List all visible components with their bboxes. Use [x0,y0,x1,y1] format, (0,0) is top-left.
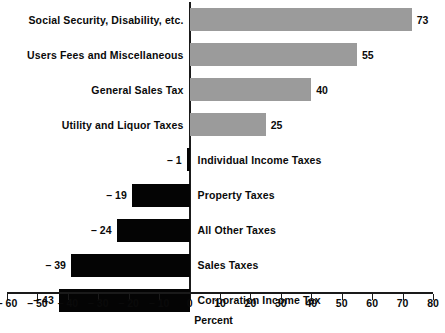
bar-row: General Sales Tax40 [0,78,445,101]
bar-category-label: Utility and Liquor Taxes [62,119,184,131]
plot-area: Social Security, Disability, etc.73Users… [0,0,445,292]
x-axis-title: Percent [194,314,233,326]
x-axis-tick-label: 30 [275,297,287,309]
bar-value-label: – 24 [91,224,111,236]
x-axis-tick-label: – 30 [88,297,108,309]
bar-negative [132,184,190,207]
bar-category-label: Social Security, Disability, etc. [28,14,183,26]
bar-value-label: – 1 [167,154,182,166]
bar-positive [190,43,357,66]
bar-value-label: 55 [362,49,374,61]
x-axis-tick-label: 50 [336,297,348,309]
x-axis-tick-label: 60 [366,297,378,309]
bar-negative [71,254,190,277]
bar-positive [190,8,412,31]
bar-category-label: Users Fees and Miscellaneous [27,49,184,61]
bar-value-label: 73 [417,14,429,26]
bar-value-label: 40 [316,84,328,96]
x-axis-tick-label: – 10 [149,297,169,309]
bar-negative [187,148,190,171]
bar-row: Sales Taxes– 39 [0,254,445,277]
bar-row: Social Security, Disability, etc.73 [0,8,445,31]
x-axis: Percent – 60– 50– 40– 30– 20– 1001020304… [0,292,445,333]
bar-category-label: Individual Income Taxes [198,154,322,166]
x-axis-tick-label: 80 [427,297,439,309]
bar-positive [190,78,312,101]
bar-value-label: – 19 [106,189,126,201]
bar-row: Property Taxes– 19 [0,184,445,207]
bar-category-label: All Other Taxes [198,224,277,236]
bar-negative [117,219,190,242]
bar-category-label: Sales Taxes [198,259,259,271]
bar-row: Users Fees and Miscellaneous55 [0,43,445,66]
x-axis-tick-label: 0 [187,297,193,309]
bar-row: Individual Income Taxes– 1 [0,148,445,171]
x-axis-tick-label: 70 [397,297,409,309]
x-axis-tick-label: 10 [214,297,226,309]
x-axis-tick-label: – 40 [58,297,78,309]
bar-value-label: – 39 [45,259,65,271]
bar-row: All Other Taxes– 24 [0,219,445,242]
bar-category-label: Property Taxes [198,189,275,201]
x-axis-tick-label: – 60 [0,297,17,309]
bar-chart: Social Security, Disability, etc.73Users… [0,0,445,333]
x-axis-tick-label: 40 [305,297,317,309]
bar-row: Utility and Liquor Taxes25 [0,113,445,136]
bar-value-label: 25 [271,119,283,131]
bar-category-label: General Sales Tax [91,84,183,96]
x-axis-tick-label: – 20 [118,297,138,309]
x-axis-tick-label: – 50 [27,297,47,309]
x-axis-tick-label: 20 [245,297,257,309]
bar-positive [190,113,266,136]
